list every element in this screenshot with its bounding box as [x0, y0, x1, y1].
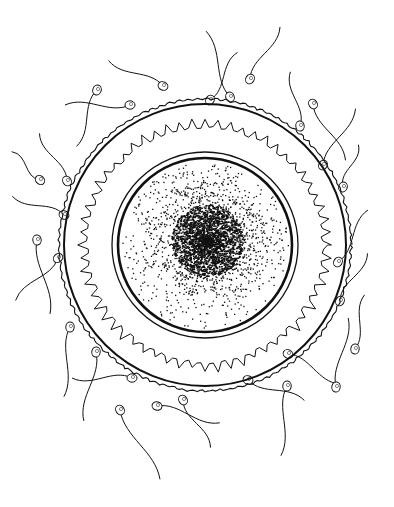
sperm-cell: [32, 234, 51, 314]
sperm-cell: [282, 348, 340, 384]
sperm-cell: [114, 404, 160, 480]
sperm-cell: [331, 318, 349, 393]
sperm-cell: [65, 101, 135, 109]
sperm-cell: [289, 72, 305, 132]
sperm-cell: [244, 27, 280, 85]
sperm-cell: [109, 61, 170, 92]
sperm-cell: [83, 346, 101, 421]
egg-and-sperm-illustration: Egg cell (ovum) surrounded by sperm cell…: [0, 0, 394, 507]
egg-cell: [58, 98, 352, 392]
sperm-cell: [350, 295, 365, 355]
sperm-cell: [16, 251, 65, 300]
illustration-canvas: [0, 0, 394, 507]
sperm-cell: [206, 31, 236, 103]
sperm-cell: [12, 196, 70, 220]
sperm-cell: [337, 145, 359, 193]
sperm-cell: [77, 84, 103, 147]
sperm-cell: [177, 394, 211, 448]
sperm-cell: [64, 322, 75, 397]
sperm-cell: [12, 152, 47, 187]
sperm-cell: [307, 98, 346, 161]
sperm-cell: [317, 109, 356, 172]
sperm-cell: [72, 374, 137, 382]
